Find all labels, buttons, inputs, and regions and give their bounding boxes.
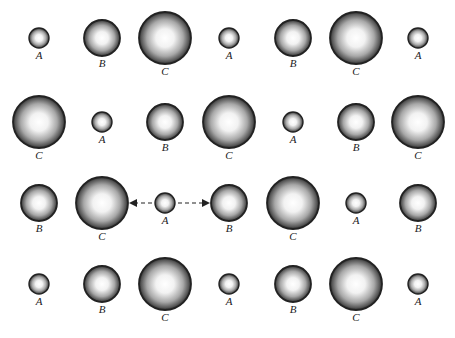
- sphere-circle: [408, 274, 428, 294]
- sphere-label: B: [290, 57, 297, 69]
- sphere-a: A: [29, 274, 49, 307]
- sphere-circle: [203, 96, 255, 148]
- sphere-a: A: [219, 28, 239, 61]
- sphere-a: A: [29, 28, 49, 61]
- sphere-label: C: [352, 311, 360, 323]
- sphere-label: B: [36, 222, 43, 234]
- sphere-b: B: [338, 104, 374, 153]
- sphere-circle: [275, 266, 311, 302]
- sphere-label: C: [414, 149, 422, 161]
- sphere-circle: [330, 258, 382, 310]
- sphere-label: A: [98, 133, 106, 145]
- sphere-circle: [275, 20, 311, 56]
- sphere-circle: [330, 12, 382, 64]
- sphere-a: A: [155, 193, 175, 226]
- sphere-circle: [408, 28, 428, 48]
- sphere-label: C: [98, 230, 106, 242]
- sphere-circle: [267, 177, 319, 229]
- sphere-label: B: [99, 57, 106, 69]
- sphere-circle: [139, 258, 191, 310]
- sphere-b: B: [211, 185, 247, 234]
- sphere-circle: [283, 112, 303, 132]
- sphere-a: A: [408, 274, 428, 307]
- sphere-label: B: [99, 303, 106, 315]
- sphere-label: C: [225, 149, 233, 161]
- diagram-canvas: ABCABCACABCABCBCABCABABCABCA: [0, 0, 455, 338]
- sphere-circle: [211, 185, 247, 221]
- sphere-a: A: [346, 193, 366, 226]
- spheres-layer: ABCABCACABCABCBCABCABABCABCA: [13, 12, 444, 323]
- sphere-b: B: [84, 266, 120, 315]
- sphere-circle: [219, 28, 239, 48]
- sphere-circle: [219, 274, 239, 294]
- sphere-label: C: [289, 230, 297, 242]
- sphere-circle: [13, 96, 65, 148]
- sphere-label: C: [161, 311, 169, 323]
- sphere-label: B: [415, 222, 422, 234]
- sphere-label: B: [353, 141, 360, 153]
- sphere-stacking-diagram: ABCABCACABCABCBCABCABABCABCA: [0, 0, 455, 338]
- sphere-circle: [29, 28, 49, 48]
- sphere-label: A: [35, 295, 43, 307]
- sphere-label: A: [414, 49, 422, 61]
- sphere-circle: [338, 104, 374, 140]
- sphere-label: A: [352, 214, 360, 226]
- sphere-label: B: [290, 303, 297, 315]
- sphere-a: A: [219, 274, 239, 307]
- sphere-circle: [84, 266, 120, 302]
- sphere-label: A: [161, 214, 169, 226]
- sphere-label: A: [35, 49, 43, 61]
- sphere-circle: [92, 112, 112, 132]
- sphere-c: C: [76, 177, 128, 242]
- sphere-c: C: [13, 96, 65, 161]
- sphere-b: B: [21, 185, 57, 234]
- sphere-label: B: [226, 222, 233, 234]
- sphere-label: C: [352, 65, 360, 77]
- sphere-label: B: [162, 141, 169, 153]
- sphere-label: A: [289, 133, 297, 145]
- sphere-b: B: [275, 266, 311, 315]
- sphere-circle: [400, 185, 436, 221]
- sphere-circle: [346, 193, 366, 213]
- sphere-c: C: [139, 12, 191, 77]
- sphere-c: C: [267, 177, 319, 242]
- sphere-circle: [76, 177, 128, 229]
- sphere-b: B: [275, 20, 311, 69]
- sphere-c: C: [139, 258, 191, 323]
- sphere-c: C: [203, 96, 255, 161]
- sphere-a: A: [92, 112, 112, 145]
- sphere-circle: [21, 185, 57, 221]
- sphere-c: C: [392, 96, 444, 161]
- sphere-circle: [29, 274, 49, 294]
- sphere-label: A: [225, 49, 233, 61]
- sphere-circle: [84, 20, 120, 56]
- sphere-circle: [392, 96, 444, 148]
- sphere-c: C: [330, 258, 382, 323]
- sphere-a: A: [283, 112, 303, 145]
- sphere-b: B: [84, 20, 120, 69]
- sphere-label: A: [414, 295, 422, 307]
- sphere-circle: [147, 104, 183, 140]
- sphere-b: B: [147, 104, 183, 153]
- sphere-c: C: [330, 12, 382, 77]
- sphere-label: C: [161, 65, 169, 77]
- sphere-circle: [139, 12, 191, 64]
- sphere-a: A: [408, 28, 428, 61]
- sphere-label: A: [225, 295, 233, 307]
- sphere-b: B: [400, 185, 436, 234]
- sphere-circle: [155, 193, 175, 213]
- sphere-label: C: [35, 149, 43, 161]
